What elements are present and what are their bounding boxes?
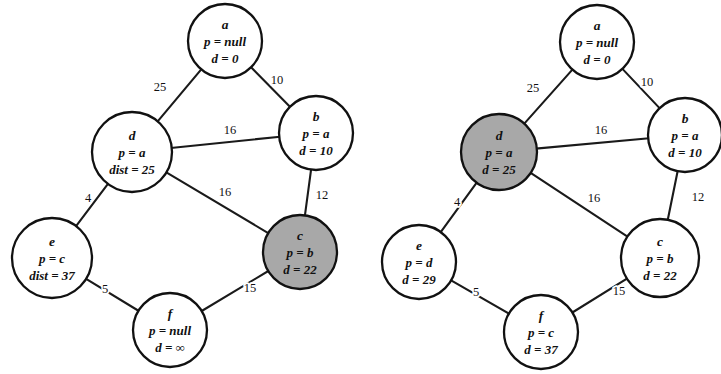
node-parent-d: p = a [485,145,513,160]
graph-edge-e-f [450,280,510,314]
graph-edge-d-b [536,138,649,148]
node-parent-f: p = c [527,325,554,340]
graph-node-d[interactable]: dp = adist = 25 [92,112,172,192]
edge-weight-b-c: 12 [692,190,705,204]
graph-edge-d-c [166,172,270,234]
graph-edge-b-c [305,169,311,217]
graph-canvas-right: 2525101016161212161644551515ap = nulld =… [361,0,721,374]
node-distance-d: d = 25 [482,162,516,177]
node-label-b: b [313,109,320,124]
node-distance-e: d = 29 [402,272,436,287]
edge-weight-d-e: 4 [454,195,461,209]
graph-node-b[interactable]: bp = ad = 10 [279,96,353,170]
graph-diagram-right: 2525101016161212161644551515ap = nulld =… [361,0,721,374]
edge-weight-e-f: 5 [473,285,479,299]
node-label-d: d [496,128,503,143]
graph-node-f[interactable]: fp = cd = 37 [504,295,578,369]
graph-diagram-left: 2525101016161212161644551515ap = nulld =… [0,0,360,374]
graph-edge-a-d [524,69,573,124]
node-distance-e: dist = 37 [29,268,75,283]
node-parent-b: p = a [671,128,699,143]
graph-edge-e-f [85,278,139,311]
node-parent-e: p = c [38,251,65,266]
edge-weight-b-c: 12 [316,188,329,202]
node-distance-a: d = 0 [212,51,239,66]
graph-node-c[interactable]: cp = bd = 22 [263,215,337,289]
edge-weight-d-e: 4 [85,191,92,205]
node-label-a: a [222,17,229,32]
graph-canvas-left: 2525101016161212161644551515ap = nulld =… [0,0,360,374]
graph-node-e[interactable]: ep = cdist = 37 [12,218,92,298]
node-parent-c: p = b [286,245,314,260]
edge-weight-d-c: 16 [219,185,232,199]
node-parent-a: p = null [575,35,618,50]
node-distance-f: d = ∞ [155,340,185,355]
node-parent-c: p = b [646,251,674,266]
node-label-d: d [129,128,136,143]
node-distance-d: dist = 25 [109,162,155,177]
edge-weight-d-b: 16 [224,123,237,137]
node-parent-a: p = null [203,34,246,49]
graph-node-b[interactable]: bp = ad = 10 [648,98,721,172]
node-parent-d: p = a [118,145,146,160]
graph-edge-d-c [530,172,628,237]
node-distance-c: d = 22 [643,268,677,283]
edge-weight-d-b: 16 [595,123,608,137]
edge-weight-a-b: 10 [271,73,284,87]
graph-edge-f-c [201,271,269,312]
node-label-e: e [49,234,55,249]
node-label-b: b [682,111,689,126]
graph-node-d[interactable]: dp = ad = 25 [461,114,537,190]
graph-figure-pair: 2525101016161212161644551515ap = nulld =… [0,0,721,374]
edge-weight-f-c: 15 [244,281,257,295]
graph-node-a[interactable]: ap = nulld = 0 [188,4,262,78]
edge-weight-d-c: 16 [588,191,601,205]
edge-weight-a-d: 25 [527,81,540,95]
graph-node-a[interactable]: ap = nulld = 0 [560,5,634,79]
node-parent-b: p = a [302,126,330,141]
node-label-c: c [297,228,303,243]
edge-weight-f-c: 15 [613,284,626,298]
node-distance-a: d = 0 [584,52,611,67]
node-distance-b: d = 10 [299,143,333,158]
graph-edge-d-e [75,183,108,227]
node-distance-b: d = 10 [668,145,702,160]
node-label-e: e [416,238,422,253]
edge-weight-a-b: 10 [641,75,654,89]
graph-node-f[interactable]: fp = nulld = ∞ [133,293,207,367]
node-distance-f: d = 37 [524,342,558,357]
node-parent-e: p = d [405,255,433,270]
graph-node-c[interactable]: cp = bd = 22 [621,219,699,297]
edge-weight-a-d: 25 [154,80,167,94]
graph-edge-b-c [668,170,678,220]
edge-weight-e-f: 5 [102,282,108,296]
node-label-c: c [657,234,663,249]
graph-edge-d-b [171,137,280,148]
node-label-a: a [594,18,601,33]
graph-edge-a-d [157,69,202,123]
node-parent-f: p = null [148,323,191,338]
graph-node-e[interactable]: ep = dd = 29 [382,225,456,299]
node-distance-c: d = 22 [283,262,317,277]
node-layer: ap = nulld = 0bp = ad = 10dp = adist = 2… [12,4,353,367]
